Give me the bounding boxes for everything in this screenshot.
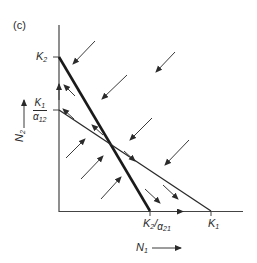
arrow-icon: [101, 177, 121, 199]
arrow-icon: [145, 189, 160, 203]
fraction-numerator: K1: [33, 98, 47, 111]
den-sub: 12: [39, 116, 47, 123]
y-tick-k1-over-alpha12: K1 α12: [33, 98, 47, 123]
arrow-icon: [64, 85, 75, 96]
phase-plane-diagram: (c) K2 K1 α12 N2 K2/α21 K1 N1: [0, 0, 257, 263]
y-tick-k2: K2: [36, 51, 47, 63]
arrow-icon: [81, 156, 103, 179]
arrow-icon: [156, 52, 175, 72]
arrow-icon: [73, 41, 95, 64]
trajectory-arrows: [24, 41, 189, 248]
x-tick-k1: K1: [208, 218, 219, 230]
x-axis-label-sub: 1: [144, 247, 148, 254]
arrow-icon: [102, 75, 127, 99]
x-tick-k2-over-alpha21: K2/α21: [143, 218, 171, 232]
axes: [53, 25, 243, 216]
x-axis-label-main: N: [136, 241, 144, 253]
x-tick-k1-sub: 1: [215, 223, 219, 230]
y-tick-k2-sub: 2: [43, 56, 47, 63]
arrow-icon: [165, 140, 189, 165]
y-axis-label: N2: [14, 130, 26, 142]
x-tick-den-sub: 21: [163, 225, 171, 232]
y-axis-label-main: N: [13, 134, 25, 142]
arrow-icon: [124, 151, 135, 161]
arrow-icon: [66, 139, 85, 158]
x-axis-label: N1: [136, 242, 148, 254]
y-axis-label-sub: 2: [19, 130, 26, 134]
arrow-icon: [130, 118, 152, 140]
num-sub: 1: [41, 102, 45, 109]
fraction-denominator: α12: [33, 111, 47, 123]
panel-label: (c): [13, 20, 26, 31]
